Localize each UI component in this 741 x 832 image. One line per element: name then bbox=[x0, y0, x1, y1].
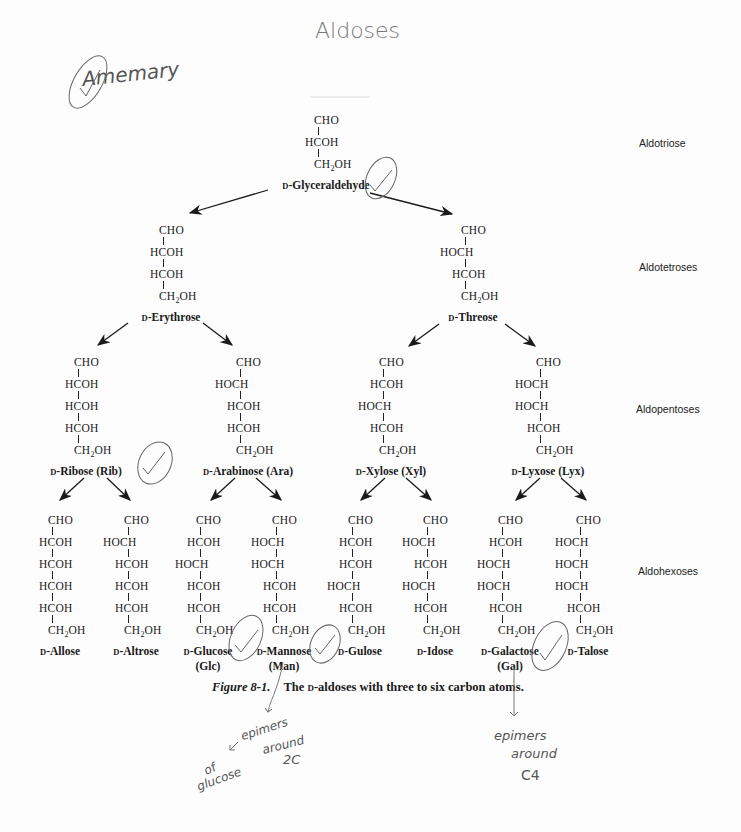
bond-line bbox=[427, 549, 428, 557]
sugar-name-lyxose: D-Lyxose (Lyx) bbox=[512, 464, 585, 479]
sugar-name-text: -Idose bbox=[423, 645, 453, 657]
bond-line bbox=[276, 527, 277, 535]
sugar-name-xylose: D-Xylose (Xyl) bbox=[356, 464, 426, 479]
sugar-name-threose: D-Threose bbox=[448, 310, 497, 325]
bond-line bbox=[580, 593, 581, 601]
sugar-name-text: -Glucose bbox=[190, 645, 233, 657]
bond-line bbox=[163, 259, 164, 267]
formula-row: CH2OH bbox=[423, 624, 461, 641]
figure-caption-text: -aldoses with three to six carbon atoms. bbox=[314, 680, 524, 694]
formula-row: HCOH bbox=[339, 558, 372, 571]
bond-line bbox=[128, 549, 129, 557]
bond-line bbox=[200, 527, 201, 535]
bond-line bbox=[78, 413, 79, 421]
formula-row: CH2OH bbox=[314, 158, 352, 175]
figure-caption: Figure 8-1. The D-aldoses with three to … bbox=[212, 680, 524, 695]
formula-row: CHO bbox=[272, 514, 297, 527]
sugar-name-text: -Xylose (Xyl) bbox=[362, 465, 426, 477]
sugar-name-text: -Glyceraldehyde bbox=[289, 179, 370, 191]
formula-row: CH2OH bbox=[74, 444, 112, 461]
bond-line bbox=[427, 593, 428, 601]
bond-line bbox=[128, 527, 129, 535]
check-circle-ribose bbox=[131, 436, 179, 489]
figure-caption-pre: The bbox=[283, 680, 307, 694]
bond-line bbox=[502, 593, 503, 601]
formula-row: HCOH bbox=[39, 558, 72, 571]
formula-row: HCOH bbox=[263, 580, 296, 593]
bond-line bbox=[276, 571, 277, 579]
formula-row: CH2OH bbox=[379, 444, 417, 461]
note-around-right: around bbox=[511, 746, 557, 761]
bond-line bbox=[52, 571, 53, 579]
formula-row: HOCH bbox=[555, 558, 588, 571]
bond-line bbox=[580, 571, 581, 579]
formula-row: HOCH bbox=[103, 536, 136, 549]
bond-line bbox=[580, 549, 581, 557]
diagram-overlay bbox=[0, 0, 741, 832]
formula-row: CHO bbox=[74, 356, 99, 369]
bond-line bbox=[78, 391, 79, 399]
formula-row: HCOH bbox=[227, 422, 260, 435]
formula-row: HCOH bbox=[115, 580, 148, 593]
formula-row: HCOH bbox=[187, 536, 220, 549]
bond-line bbox=[502, 571, 503, 579]
formula-row: HCOH bbox=[414, 558, 447, 571]
formula-row: HOCH bbox=[477, 580, 510, 593]
bond-line bbox=[200, 549, 201, 557]
sugar-name-text: -Talose bbox=[574, 645, 609, 657]
pencil-pointers bbox=[230, 662, 514, 750]
sugar-name-text: -Arabinose (Ara) bbox=[209, 465, 293, 477]
bond-line bbox=[352, 615, 353, 623]
formula-row: HCOH bbox=[187, 602, 220, 615]
formula-row: HCOH bbox=[527, 422, 560, 435]
formula-row: HCOH bbox=[370, 422, 403, 435]
bond-line bbox=[502, 527, 503, 535]
sugar-name-text: -Mannose bbox=[263, 645, 312, 657]
formula-row: HOCH bbox=[555, 580, 588, 593]
bond-line bbox=[383, 391, 384, 399]
bond-line bbox=[465, 281, 466, 289]
level-label-aldotetroses: Aldotetroses bbox=[639, 261, 697, 273]
formula-row: HCOH bbox=[115, 602, 148, 615]
bond-line bbox=[200, 593, 201, 601]
sugar-name-glyceraldehyde: D-Glyceraldehyde bbox=[282, 178, 369, 193]
bond-line bbox=[128, 571, 129, 579]
formula-row: HOCH bbox=[555, 536, 588, 549]
sugar-name-text: -Altrose bbox=[119, 645, 158, 657]
sugar-name-glucose: D-Glucose(Glc) bbox=[184, 644, 233, 673]
formula-row: CH2OH bbox=[124, 624, 162, 641]
sugar-name-text: -Gulose bbox=[344, 645, 382, 657]
formula-row: HCOH bbox=[414, 602, 447, 615]
formula-row: CH2OH bbox=[461, 290, 499, 307]
formula-row: CHO bbox=[536, 356, 561, 369]
formula-row: CH2OH bbox=[498, 624, 536, 641]
formula-row: HOCH bbox=[402, 536, 435, 549]
sugar-name-text: -Galactose bbox=[487, 645, 539, 657]
bond-line bbox=[78, 369, 79, 377]
sugar-abbreviation: (Glc) bbox=[196, 660, 221, 672]
formula-row: HOCH bbox=[358, 400, 391, 413]
sugar-name-text: -Allose bbox=[46, 645, 80, 657]
formula-row: CHO bbox=[348, 514, 373, 527]
formula-row: CHO bbox=[124, 514, 149, 527]
formula-row: HCOH bbox=[65, 378, 98, 391]
bond-line bbox=[427, 615, 428, 623]
formula-row: HCOH bbox=[339, 536, 372, 549]
sugar-name-allose: D-Allose bbox=[40, 644, 80, 659]
formula-row: CH2OH bbox=[236, 444, 274, 461]
formula-row: HCOH bbox=[187, 580, 220, 593]
formula-row: CHO bbox=[196, 514, 221, 527]
formula-row: CH2OH bbox=[536, 444, 574, 461]
bond-line bbox=[383, 413, 384, 421]
formula-row: CHO bbox=[576, 514, 601, 527]
bond-line bbox=[240, 391, 241, 399]
bond-line bbox=[580, 527, 581, 535]
formula-row: HOCH bbox=[251, 558, 284, 571]
sugar-name-arabinose: D-Arabinose (Ara) bbox=[203, 464, 293, 479]
bond-line bbox=[163, 237, 164, 245]
formula-row: HOCH bbox=[402, 580, 435, 593]
formula-row: HCOH bbox=[39, 536, 72, 549]
formula-row: HCOH bbox=[339, 602, 372, 615]
formula-row: HCOH bbox=[150, 246, 183, 259]
bond-line bbox=[383, 369, 384, 377]
